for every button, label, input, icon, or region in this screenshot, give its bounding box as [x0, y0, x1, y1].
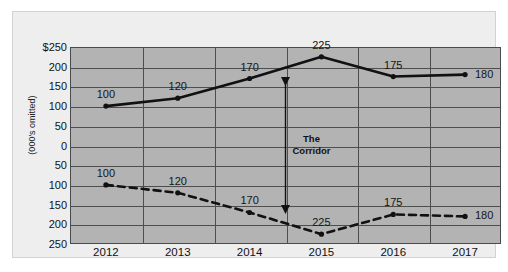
- y-axis-tick-label: 0: [15, 140, 67, 152]
- data-point-label: 180: [475, 68, 493, 80]
- chart-screenshot: (000's omitted) $25020015010050050100150…: [0, 0, 508, 272]
- data-point-marker: [319, 54, 324, 59]
- x-axis-tick-label: 2012: [76, 246, 136, 258]
- data-point-label: 120: [169, 80, 187, 92]
- corridor-label-line1: The: [293, 133, 331, 146]
- y-axis-tick-label: 150: [15, 199, 67, 211]
- x-axis-tick-label: 2015: [291, 246, 351, 258]
- y-axis-tick-label: 100: [15, 179, 67, 191]
- x-axis-tick-label: 2016: [363, 246, 423, 258]
- data-point-label: 175: [384, 196, 402, 208]
- y-axis-tick-label: 150: [15, 80, 67, 92]
- data-point-marker: [391, 74, 396, 79]
- x-axis-tick-label: 2013: [148, 246, 208, 258]
- chart-card: (000's omitted) $25020015010050050100150…: [12, 11, 496, 258]
- data-point-label: 170: [240, 61, 258, 73]
- y-axis-tick-label: 200: [15, 61, 67, 73]
- corridor-label-line2: Corridor: [293, 146, 331, 159]
- data-point-label: 100: [97, 167, 115, 179]
- data-point-marker: [319, 232, 324, 237]
- data-point-label: 120: [169, 175, 187, 187]
- x-axis-tick-label: 2014: [220, 246, 280, 258]
- data-point-label: 225: [312, 39, 330, 51]
- y-axis-tick-label: 100: [15, 100, 67, 112]
- x-axis-tick-labels: 201220132014201520162017: [70, 246, 501, 266]
- data-point-label: 180: [475, 209, 493, 221]
- y-axis-tick-label: 50: [15, 159, 67, 171]
- y-axis-tick-labels: $25020015010050050100150200250: [13, 47, 67, 244]
- data-point-label: 170: [240, 194, 258, 206]
- y-axis-tick-label: 250: [15, 238, 67, 250]
- data-point-label: 100: [97, 88, 115, 100]
- data-point-marker: [247, 76, 252, 81]
- y-axis-tick-label: $250: [15, 41, 67, 53]
- data-point-marker: [462, 214, 467, 219]
- y-axis-tick-label: 200: [15, 218, 67, 230]
- data-point-marker: [462, 72, 467, 77]
- x-axis-tick-label: 2017: [435, 246, 495, 258]
- data-point-label: 225: [312, 216, 330, 228]
- y-axis-tick-label: 50: [15, 120, 67, 132]
- data-point-label: 175: [384, 59, 402, 71]
- data-point-marker: [175, 190, 180, 195]
- data-point-marker: [247, 210, 252, 215]
- data-point-marker: [103, 104, 108, 109]
- corridor-annotation-label: TheCorridor: [293, 133, 331, 159]
- data-point-marker: [175, 96, 180, 101]
- data-point-marker: [391, 212, 396, 217]
- series-layer: [70, 47, 501, 244]
- data-point-marker: [103, 182, 108, 187]
